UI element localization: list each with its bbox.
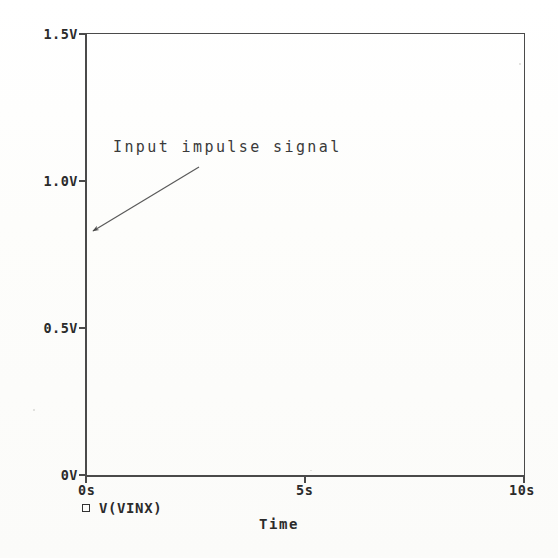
y-tick-label-1-0v: 1.0V — [10, 173, 78, 189]
x-tick-label-5s: 5s — [296, 482, 313, 498]
x-tick-0s — [85, 468, 87, 483]
x-tick-label-0s: 0s — [78, 482, 95, 498]
y-axis-line — [85, 33, 87, 476]
legend-trace-label[interactable]: V(VINX) — [99, 500, 162, 516]
y-tick-0-5v — [79, 327, 86, 329]
x-tick-label-10s: 10s — [509, 482, 535, 498]
legend-square-marker-icon — [82, 504, 90, 512]
y-tick-label-0v: 0V — [10, 467, 78, 483]
annotation-label: Input impulse signal — [113, 138, 342, 156]
y-tick-1-5v — [79, 33, 86, 35]
plot-frame-top — [85, 33, 525, 34]
probe-plot-canvas: 1.5V 1.0V 0.5V 0V 0s 5s 10s Input impuls… — [0, 0, 558, 558]
annotation-arrow-icon — [80, 160, 210, 245]
x-axis-title: Time — [0, 516, 558, 532]
y-tick-label-0-5v: 0.5V — [10, 320, 78, 336]
y-tick-label-1-5v: 1.5V — [10, 26, 78, 42]
scan-speckle — [519, 63, 521, 65]
scan-speckle — [310, 470, 312, 471]
plot-frame-right — [524, 33, 525, 476]
legend[interactable]: V(VINX) — [82, 500, 162, 516]
y-axis-tick-labels: 1.5V 1.0V 0.5V 0V — [0, 0, 78, 558]
